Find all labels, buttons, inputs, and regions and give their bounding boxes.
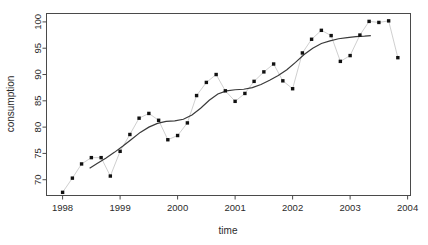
data-point (195, 94, 198, 97)
x-tick-label: 2001 (225, 202, 246, 213)
data-point (272, 62, 275, 65)
data-point (281, 79, 284, 82)
data-point (320, 29, 323, 32)
data-point (186, 121, 189, 124)
data-point (128, 133, 131, 136)
data-point (377, 21, 380, 24)
x-tick-label: 2003 (340, 202, 361, 213)
x-tick-label: 1998 (52, 202, 73, 213)
x-axis-ticks (63, 196, 408, 200)
y-tick-label: 80 (32, 122, 43, 133)
data-connector-line (63, 21, 398, 192)
data-point (109, 174, 112, 177)
data-point (157, 119, 160, 122)
data-point (252, 80, 255, 83)
data-point (61, 191, 64, 194)
data-point (367, 20, 370, 23)
data-point (396, 56, 399, 59)
data-point (176, 134, 179, 137)
x-tick-label: 2002 (282, 202, 303, 213)
x-tick-label: 2000 (167, 202, 188, 213)
data-point (262, 70, 265, 73)
data-point (214, 73, 217, 76)
data-point (301, 51, 304, 54)
data-point (224, 89, 227, 92)
y-tick-label: 70 (32, 174, 43, 185)
y-tick-label: 100 (32, 14, 43, 30)
y-tick-label: 85 (32, 96, 43, 107)
y-axis-ticks (43, 22, 47, 180)
data-points (61, 19, 400, 194)
trend-line (90, 36, 371, 169)
data-point (90, 156, 93, 159)
data-point (147, 112, 150, 115)
y-axis-title: consumption (5, 76, 16, 133)
y-tick-label: 90 (32, 69, 43, 80)
data-point (243, 92, 246, 95)
x-tick-label: 2004 (397, 202, 418, 213)
data-point (137, 116, 140, 119)
data-point (329, 34, 332, 37)
data-point (99, 156, 102, 159)
y-tick-label: 95 (32, 43, 43, 54)
x-tick-labels: 1998199920002001200220032004 (52, 202, 418, 213)
data-point (233, 100, 236, 103)
chart-figure: 707580859095100 199819992000200120022003… (0, 0, 428, 245)
x-tick-label: 1999 (110, 202, 131, 213)
data-point (387, 19, 390, 22)
data-point (166, 138, 169, 141)
y-tick-label: 75 (32, 148, 43, 159)
data-point (80, 162, 83, 165)
y-tick-labels: 707580859095100 (32, 14, 43, 185)
data-point (358, 33, 361, 36)
x-axis-title: time (219, 225, 238, 236)
data-point (71, 176, 74, 179)
data-point (291, 87, 294, 90)
data-point (205, 81, 208, 84)
data-point (118, 150, 121, 153)
data-point (339, 60, 342, 63)
chart-canvas: 707580859095100 199819992000200120022003… (0, 0, 428, 245)
plot-frame (47, 14, 411, 196)
data-point (348, 54, 351, 57)
data-point (310, 38, 313, 41)
